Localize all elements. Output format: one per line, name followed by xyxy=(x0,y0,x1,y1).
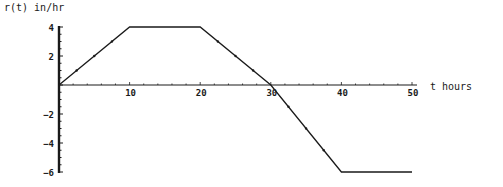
data-point-marker xyxy=(217,40,219,42)
data-point-marker xyxy=(287,106,289,108)
x-axis-label: t hours xyxy=(430,81,472,92)
data-point-marker xyxy=(111,40,113,42)
axes xyxy=(59,26,417,173)
y-tick-label: −6 xyxy=(43,168,54,178)
series-layer xyxy=(59,27,412,172)
data-point-marker xyxy=(323,149,325,151)
chart-container: 42−2−4−61020304050 r(t) in/hr t hours xyxy=(0,0,503,187)
y-axis-label: r(t) in/hr xyxy=(4,2,64,13)
y-tick-label: −4 xyxy=(43,139,54,149)
data-point-marker xyxy=(75,69,77,71)
ticks: 42−2−4−61020304050 xyxy=(43,23,418,178)
y-tick-label: 2 xyxy=(49,52,54,62)
series-line xyxy=(59,27,412,172)
data-point-marker xyxy=(234,55,236,57)
x-tick-label: 30 xyxy=(266,88,277,98)
y-tick-label: −2 xyxy=(43,110,54,120)
y-tick-label: 4 xyxy=(49,23,55,33)
line-chart: 42−2−4−61020304050 r(t) in/hr t hours xyxy=(0,0,503,187)
x-tick-label: 40 xyxy=(337,88,348,98)
x-tick-label: 10 xyxy=(125,88,136,98)
data-point-marker xyxy=(305,127,307,129)
x-tick-label: 20 xyxy=(196,88,207,98)
data-point-marker xyxy=(252,69,254,71)
x-tick-label: 50 xyxy=(408,88,419,98)
data-point-marker xyxy=(93,55,95,57)
